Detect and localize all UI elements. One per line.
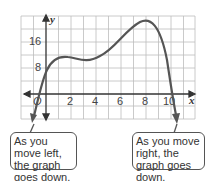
right-callout: As you move right, the graph goes down. xyxy=(132,132,205,170)
x-tick-8: 8 xyxy=(142,95,148,107)
right-arrowhead xyxy=(172,113,180,124)
x-axis-label: x xyxy=(188,94,195,106)
x-tick-6: 6 xyxy=(117,95,123,107)
left-callout: As you move left, the graph goes down. xyxy=(10,132,77,170)
y-tick-8: 8 xyxy=(35,61,41,73)
y-axis-label: y xyxy=(48,13,55,25)
x-tick-2: 2 xyxy=(67,95,73,107)
x-tick-4: 4 xyxy=(92,95,98,107)
y-tick-16: 16 xyxy=(29,35,41,47)
left-arrowhead xyxy=(30,113,37,123)
